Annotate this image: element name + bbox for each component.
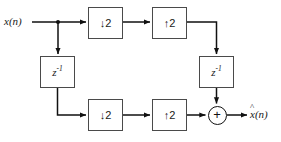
output-signal-suffix: (n) bbox=[255, 108, 268, 120]
block-delay-right-label: z-1 bbox=[211, 67, 222, 78]
block-downsampler-bottom[interactable]: ↓2 bbox=[88, 99, 123, 131]
input-signal-label: x(n) bbox=[4, 15, 22, 27]
block-delay-right[interactable]: z-1 bbox=[199, 56, 234, 88]
block-delay-left[interactable]: z-1 bbox=[40, 56, 75, 88]
output-signal-label: ^x(n) bbox=[250, 108, 268, 120]
wire-delayleft-to-downbottom bbox=[58, 88, 87, 115]
block-upsampler-bottom-label: ↑2 bbox=[164, 110, 176, 121]
block-upsampler-top-label: ↑2 bbox=[164, 18, 176, 29]
block-delay-left-exponent: -1 bbox=[57, 64, 63, 73]
wire-uptop-to-delayright bbox=[187, 22, 217, 54]
block-delay-left-label: z-1 bbox=[52, 67, 63, 78]
summing-junction-plus-symbol: + bbox=[213, 108, 221, 121]
input-signal-text: x(n) bbox=[4, 15, 22, 27]
block-downsampler-top[interactable]: ↓2 bbox=[88, 7, 123, 39]
block-downsampler-top-label: ↓2 bbox=[100, 18, 112, 29]
block-upsampler-bottom[interactable]: ↑2 bbox=[152, 99, 187, 131]
block-downsampler-bottom-label: ↓2 bbox=[100, 110, 112, 121]
block-upsampler-top[interactable]: ↑2 bbox=[152, 7, 187, 39]
output-signal-hat-group: ^x bbox=[250, 108, 255, 120]
block-delay-right-exponent: -1 bbox=[216, 64, 222, 73]
summing-junction[interactable]: + bbox=[208, 106, 227, 125]
output-signal-hat: ^ bbox=[250, 102, 254, 112]
input-branch-node bbox=[56, 20, 60, 24]
block-diagram-canvas: x(n) ↓2 ↑2 z-1 z-1 ↓2 ↑2 + ^x(n) bbox=[0, 0, 281, 142]
